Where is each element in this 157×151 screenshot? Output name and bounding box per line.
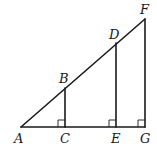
geometry-diagram: A B C D E F G xyxy=(0,0,157,151)
label-a: A xyxy=(13,131,23,146)
label-c: C xyxy=(60,131,70,146)
segment-af xyxy=(21,19,145,127)
label-e: E xyxy=(110,131,121,146)
right-angle-marker-c xyxy=(58,120,65,127)
right-angle-marker-e xyxy=(109,120,116,127)
label-g: G xyxy=(140,131,150,146)
right-angle-marker-g xyxy=(138,120,145,127)
label-d: D xyxy=(108,27,120,42)
label-f: F xyxy=(139,2,150,17)
label-b: B xyxy=(58,71,69,86)
